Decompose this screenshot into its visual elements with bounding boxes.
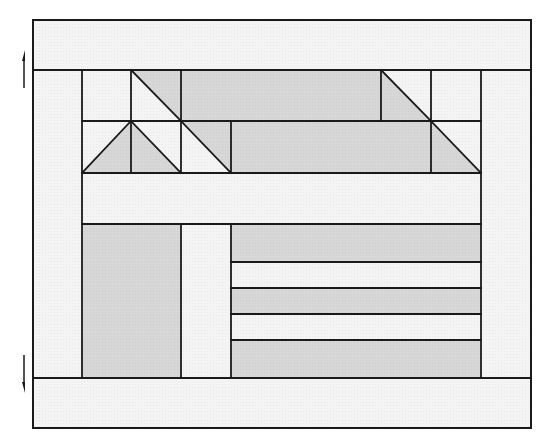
stripe-4-light <box>231 314 481 340</box>
tall-strip-light <box>181 224 231 378</box>
quilt-diagram: Quilt block layout diagram <box>0 0 551 448</box>
rect-r1-wide-dark <box>181 70 381 121</box>
square-r1-c1 <box>82 70 131 121</box>
bottom-border-strip <box>33 378 531 428</box>
top-border-strip <box>33 20 531 70</box>
rect-r2-wide-dark <box>231 121 431 173</box>
stripe-2-light <box>231 262 481 288</box>
sash-strip-middle <box>82 173 481 224</box>
up-arrow-icon <box>22 50 25 88</box>
direction-arrows <box>22 50 25 393</box>
stripe-5-dark <box>231 340 481 378</box>
left-border-strip <box>33 70 82 378</box>
stripe-1-dark <box>231 224 481 262</box>
tall-rect-dark <box>82 224 181 378</box>
right-border-strip <box>481 70 531 378</box>
down-arrow-icon <box>22 355 25 393</box>
square-r1-c7 <box>431 70 481 121</box>
stripe-3-dark <box>231 288 481 314</box>
